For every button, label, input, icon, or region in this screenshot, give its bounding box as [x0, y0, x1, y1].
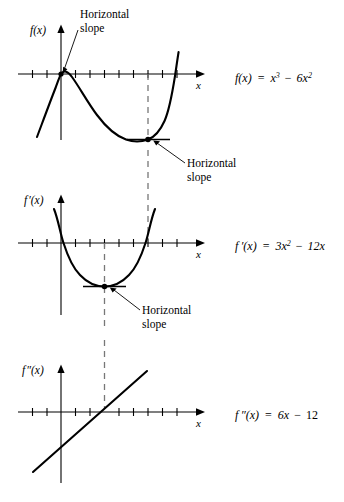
x-axis-label-panel-3: x: [195, 417, 201, 429]
curve-f: [37, 52, 179, 141]
y-axis-label-panel-1: f(x): [30, 24, 46, 37]
panel-f-prime: Horizontal slope f′(x) x f ′(x)=3x2−12x: [18, 150, 326, 331]
equation-panel-2: f ′(x)=3x2−12x: [235, 239, 326, 253]
annotation-top-line1: Horizontal: [80, 8, 129, 20]
annotation-line2-panel-2: slope: [142, 318, 166, 331]
figure-canvas: Horizontal slope Horizontal slope f(x) x…: [0, 0, 344, 502]
annotation-bottom-line2-panel-1: slope: [187, 171, 211, 184]
y-axis-panel-2: [57, 195, 64, 316]
annotation-line1-panel-2: Horizontal: [142, 304, 191, 316]
annotation-horizontal-slope-bottom-panel-1: Horizontal slope: [153, 140, 236, 184]
equation-panel-1: f(x)=x3−6x2: [235, 71, 312, 85]
panel-f: Horizontal slope Horizontal slope f(x) x…: [18, 8, 312, 184]
equation-panel-3: f ″(x)=6x−12: [235, 408, 318, 422]
annotation-bottom-line1-panel-1: Horizontal: [187, 157, 236, 169]
panel-f-double-prime: f″(x) x f ″(x)=6x−12: [18, 340, 318, 483]
calculus-derivative-figure: Horizontal slope Horizontal slope f(x) x…: [0, 0, 344, 502]
y-axis-label-panel-2: f′(x): [24, 194, 44, 207]
annotation-horizontal-slope-top: Horizontal slope: [63, 8, 130, 74]
y-axis-label-panel-3: f″(x): [22, 364, 44, 377]
annotation-horizontal-slope-panel-2: Horizontal slope: [110, 287, 191, 331]
x-axis-label-panel-1: x: [195, 79, 201, 91]
curve-f-double-prime: [33, 371, 147, 472]
y-axis-panel-3: [57, 365, 64, 484]
marker-vertex-panel-2: [83, 284, 126, 290]
annotation-top-line2: slope: [80, 22, 104, 35]
x-axis-label-panel-2: x: [195, 248, 201, 260]
